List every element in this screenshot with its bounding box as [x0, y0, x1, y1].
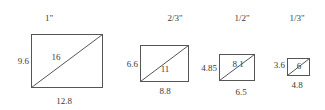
- scale-label-1-2: 1/2": [234, 13, 249, 23]
- height-label-1-3: 3.6: [274, 60, 285, 70]
- sensor-size-diagram: 1" 9.6 16 12.8 2/3" 6.6 11 8.8 1/2" 4.85…: [0, 0, 325, 110]
- width-label-1-3: 4.8: [291, 80, 302, 90]
- height-label-1: 9.6: [18, 56, 29, 66]
- sensor-rect-1-inch: [32, 35, 103, 88]
- diagonal-label-1-2: 8.1: [232, 59, 243, 69]
- diagonal-label-2-3: 11: [161, 64, 170, 74]
- width-label-1: 12.8: [56, 96, 72, 106]
- height-label-2-3: 6.6: [127, 59, 138, 69]
- diagonal-label-1: 16: [52, 52, 61, 62]
- diagonal-label-1-3: 6: [297, 61, 302, 71]
- height-label-1-2: 4.85: [201, 63, 217, 73]
- width-label-2-3: 8.8: [159, 86, 170, 96]
- scale-label-1: 1": [45, 13, 53, 23]
- scale-label-1-3: 1/3": [289, 13, 304, 23]
- width-label-1-2: 6.5: [235, 87, 246, 97]
- scale-label-2-3: 2/3": [167, 13, 182, 23]
